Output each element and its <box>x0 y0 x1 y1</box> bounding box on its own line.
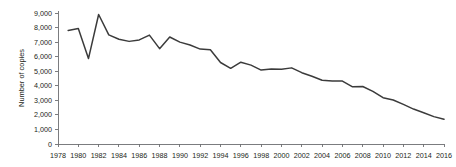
y-tick-label: 7,000 <box>34 38 52 47</box>
x-tick-label: 2012 <box>395 151 411 160</box>
x-tick-label: 2006 <box>334 151 350 160</box>
x-tick-label: 1996 <box>233 151 249 160</box>
x-tick-label: 2004 <box>314 151 330 160</box>
x-tick-label: 1998 <box>253 151 269 160</box>
y-tick-label: 0 <box>48 140 52 149</box>
x-axis-tick-labels: 1978198019821984198619881990199219941996… <box>50 151 452 160</box>
y-axis-tick-labels: 01,0002,0003,0004,0005,0006,0007,0008,00… <box>34 9 52 149</box>
x-tick-label: 1984 <box>111 151 127 160</box>
y-tick-label: 3,000 <box>34 96 52 105</box>
y-tick-label: 2,000 <box>34 110 52 119</box>
y-axis-title-text: Number of copies <box>17 49 26 107</box>
x-tick-label: 1988 <box>152 151 168 160</box>
x-tick-label: 1978 <box>50 151 66 160</box>
x-tick-label: 2016 <box>436 151 452 160</box>
x-tick-label: 1992 <box>192 151 208 160</box>
x-tick-label: 2002 <box>294 151 310 160</box>
x-tick-label: 2000 <box>273 151 289 160</box>
line-chart: Number of copies 01,0002,0003,0004,0005,… <box>0 0 456 167</box>
x-tick-label: 1980 <box>70 151 86 160</box>
y-tick-label: 9,000 <box>34 9 52 18</box>
x-tick-label: 2010 <box>375 151 391 160</box>
x-tick-label: 1994 <box>213 151 229 160</box>
x-tick-label: 2008 <box>355 151 371 160</box>
y-tick-label: 5,000 <box>34 67 52 76</box>
x-tick-label: 1986 <box>131 151 147 160</box>
data-series-line <box>68 14 444 119</box>
chart-container: Number of copies 01,0002,0003,0004,0005,… <box>0 0 456 167</box>
x-tick-label: 1982 <box>91 151 107 160</box>
y-axis-title: Number of copies <box>17 49 26 107</box>
y-tick-label: 8,000 <box>34 23 52 32</box>
y-tick-label: 4,000 <box>34 81 52 90</box>
x-tick-label: 2014 <box>416 151 432 160</box>
y-tick-label: 1,000 <box>34 125 52 134</box>
y-tick-label: 6,000 <box>34 52 52 61</box>
x-tick-label: 1990 <box>172 151 188 160</box>
